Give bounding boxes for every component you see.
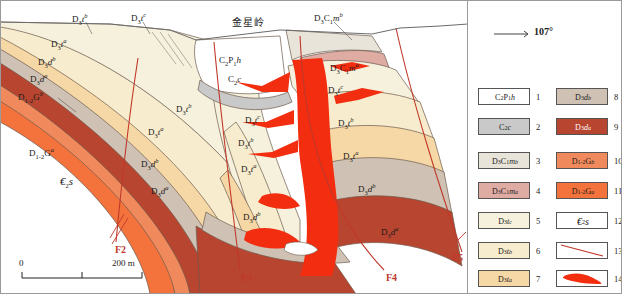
geologic-cross-section-figure: 金星岭 D3tb D3tc D3C1mb C2P1h C2c D3C1ma D3…	[0, 0, 622, 294]
figure-border	[0, 0, 622, 294]
